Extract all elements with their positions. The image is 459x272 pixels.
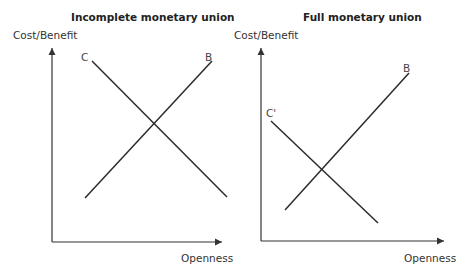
right-axes xyxy=(261,48,444,241)
right-benefit-curve xyxy=(285,73,409,210)
left-benefit-curve xyxy=(85,61,212,198)
diagram-canvas xyxy=(0,0,459,272)
left-cost-curve xyxy=(92,61,227,197)
